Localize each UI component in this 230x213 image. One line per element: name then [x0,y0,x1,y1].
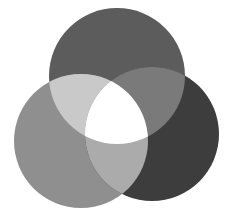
venn-diagram [0,0,230,213]
